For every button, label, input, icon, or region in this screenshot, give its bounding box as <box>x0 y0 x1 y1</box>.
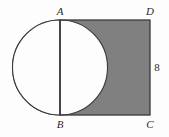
label-vertex-b: B <box>57 118 64 130</box>
label-vertex-a: A <box>56 5 64 17</box>
geometry-figure: A B D C 8 <box>0 0 169 137</box>
label-vertex-d: D <box>145 5 154 17</box>
label-vertex-c: C <box>146 118 154 130</box>
figure-canvas: A B D C 8 <box>0 0 169 137</box>
label-side-length-8: 8 <box>154 61 160 73</box>
